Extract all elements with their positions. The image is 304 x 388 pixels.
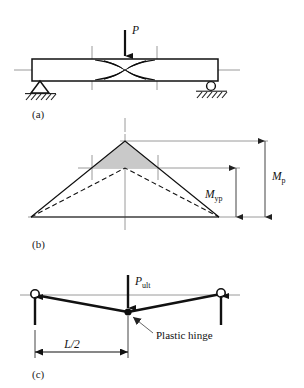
engineering-figure-svg: P <box>0 0 304 388</box>
support-pin-left <box>25 81 56 100</box>
dimension-label-myp: Myp <box>204 188 223 203</box>
support-node-left <box>31 290 39 298</box>
dimension-label-mp: Mp <box>271 170 286 185</box>
plastic-zone-shaded-area <box>91 141 159 168</box>
load-label-Pult: Pult <box>134 275 151 290</box>
support-node-right <box>217 289 225 297</box>
mechanism-link-right <box>128 294 221 312</box>
load-label-P: P <box>131 24 139 36</box>
plastic-hinge-leader-line <box>133 317 153 333</box>
panel-b: Myp Mp (b) <box>28 134 286 251</box>
panel-label-b: (b) <box>32 238 45 251</box>
panel-label-c: (c) <box>32 368 45 381</box>
panel-label-a: (a) <box>32 108 45 121</box>
plastic-hinge-marker <box>124 308 131 315</box>
panel-a: P <box>14 24 240 132</box>
dimension-label-span: L/2 <box>63 338 80 350</box>
plastic-hinge-label: Plastic hinge <box>156 329 213 341</box>
panel-c: Pult Plastic hinge L/2 (c) <box>20 275 240 381</box>
support-roller-right <box>196 82 227 98</box>
figure-container: P <box>0 0 304 388</box>
mechanism-link-left <box>35 295 128 312</box>
